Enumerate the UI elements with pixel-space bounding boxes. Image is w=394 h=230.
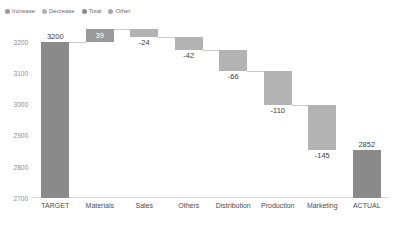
waterfall-connector xyxy=(114,29,131,30)
waterfall-connector xyxy=(69,42,86,43)
x-axis-tick-label: Materials xyxy=(86,201,114,210)
legend-swatch-decrease xyxy=(42,9,47,14)
data-label-others: -42 xyxy=(183,51,194,60)
plot-area: 320039-24-42-66-110-1452852 xyxy=(33,26,389,198)
legend-label-increase: Increase xyxy=(12,8,35,15)
x-axis-tick-label: Sales xyxy=(135,201,153,210)
bar-sales[interactable] xyxy=(130,29,158,37)
bar-marketing[interactable] xyxy=(308,105,336,150)
x-axis-tick-label: Distribution xyxy=(216,201,251,210)
data-label-materials: 39 xyxy=(96,31,104,40)
legend-item-decrease[interactable]: Decrease xyxy=(42,8,75,15)
waterfall-chart: Increase Decrease Total Other 3200310030… xyxy=(0,0,394,230)
legend-swatch-increase xyxy=(5,9,10,14)
legend-label-total: Total xyxy=(89,8,102,15)
legend-label-other: Other xyxy=(115,8,130,15)
data-label-sales: -24 xyxy=(139,38,150,47)
data-label-target: 3200 xyxy=(47,32,64,41)
legend-item-increase[interactable]: Increase xyxy=(5,8,35,15)
y-axis-tick-label: 2900 xyxy=(14,132,28,139)
legend-swatch-total xyxy=(82,9,87,14)
x-axis-tick-label: Marketing xyxy=(307,201,338,210)
data-label-marketing: -145 xyxy=(315,151,330,160)
legend-swatch-other xyxy=(108,9,113,14)
data-label-distribution: -66 xyxy=(228,72,239,81)
y-axis-tick-label: 3200 xyxy=(14,38,28,45)
x-axis-tick-label: TARGET xyxy=(41,201,69,210)
bar-others[interactable] xyxy=(175,37,203,50)
data-label-production: -110 xyxy=(271,106,285,115)
x-axis-tick-label: Production xyxy=(261,201,294,210)
legend-item-other[interactable]: Other xyxy=(108,8,130,15)
waterfall-connector xyxy=(158,37,175,38)
y-axis-tick-label: 2800 xyxy=(14,163,28,170)
waterfall-connector xyxy=(203,50,220,51)
data-label-actual: 2852 xyxy=(358,140,375,149)
bar-actual[interactable] xyxy=(353,150,381,198)
y-axis: 320031003000290028002700 xyxy=(0,26,31,198)
waterfall-connector xyxy=(292,105,309,106)
axis-baseline xyxy=(33,197,389,198)
bar-production[interactable] xyxy=(264,71,292,105)
bar-target[interactable] xyxy=(41,42,69,198)
waterfall-connector xyxy=(247,71,264,72)
y-axis-tick-label: 3100 xyxy=(14,69,28,76)
y-axis-tick-label: 3000 xyxy=(14,101,28,108)
legend-label-decrease: Decrease xyxy=(49,8,75,15)
bar-distribution[interactable] xyxy=(219,50,247,71)
x-axis-tick-label: ACTUAL xyxy=(353,201,381,210)
chart-legend: Increase Decrease Total Other xyxy=(5,6,130,17)
x-axis-tick-label: Others xyxy=(178,201,199,210)
x-axis: TARGETMaterialsSalesOthersDistributionPr… xyxy=(33,201,389,215)
legend-item-total[interactable]: Total xyxy=(82,8,102,15)
y-axis-tick-label: 2700 xyxy=(14,195,28,202)
